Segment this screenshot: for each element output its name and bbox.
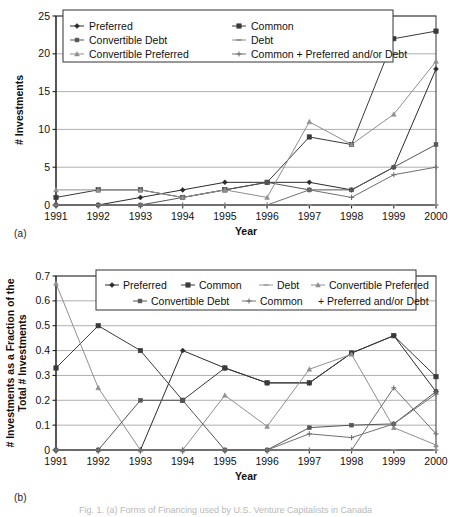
series-marker <box>307 119 312 124</box>
x-tick-label: 1999 <box>382 210 406 222</box>
two-panel-line-chart-figure: 0510152025199119921993199419951996199719… <box>0 0 451 517</box>
legend-item[interactable]: Common + Preferred and/or Debt <box>232 48 407 60</box>
series-marker <box>222 180 227 185</box>
x-tick-label: 1997 <box>298 210 322 222</box>
series-marker <box>96 385 101 390</box>
series-marker <box>307 426 311 430</box>
legend-label: Convertible Preferred <box>329 279 429 291</box>
x-tick-label: 2000 <box>424 210 448 222</box>
series-marker <box>434 66 439 71</box>
series-marker <box>392 333 396 337</box>
series-marker <box>434 29 438 33</box>
legend-label: Common <box>260 295 303 307</box>
series-marker <box>181 398 185 402</box>
series-common <box>54 324 438 403</box>
x-tick-label: 1992 <box>87 455 111 467</box>
series-marker <box>307 431 312 436</box>
series-marker <box>180 202 185 207</box>
y-tick-label: 0.2 <box>35 394 50 406</box>
y-tick-label: 0 <box>44 444 50 456</box>
series-marker <box>180 348 185 353</box>
series-marker <box>138 348 142 352</box>
legend-label: Common <box>199 279 242 291</box>
series-marker <box>392 165 396 169</box>
x-tick-label: 1992 <box>87 210 111 222</box>
y-tick-label: 20 <box>38 47 50 59</box>
series-marker <box>138 195 143 200</box>
legend-label: Common <box>251 20 294 32</box>
y-tick-label: 0.6 <box>35 294 50 306</box>
series-marker <box>350 423 354 427</box>
y-tick-label: 0.3 <box>35 369 50 381</box>
chart-panel-b: 00.10.20.30.40.50.60.7199119921993199419… <box>0 262 451 502</box>
series-marker <box>307 135 311 139</box>
series-marker <box>96 324 100 328</box>
chart-panel-a: 0510152025199119921993199419951996199719… <box>0 0 451 255</box>
series-marker <box>139 398 143 402</box>
series-marker <box>222 202 227 207</box>
x-tick-label: 1993 <box>129 455 153 467</box>
x-tick-label: 1998 <box>340 210 364 222</box>
y-tick-label: 0.1 <box>35 419 50 431</box>
series-line <box>56 69 436 205</box>
series-line <box>56 388 436 450</box>
x-tick-label: 1999 <box>382 455 406 467</box>
legend: PreferredCommonConvertible DebtDebtConve… <box>63 10 407 62</box>
series-marker <box>222 393 227 398</box>
x-tick-label: 1998 <box>340 455 364 467</box>
x-tick-label: 1994 <box>171 455 195 467</box>
x-tick-label: 1997 <box>298 455 322 467</box>
y-tick-label: 0.7 <box>35 270 50 282</box>
series-line <box>56 145 436 205</box>
legend-marker <box>75 38 79 42</box>
series-marker <box>350 188 354 192</box>
series-marker <box>349 435 354 440</box>
figure-caption-cutoff: Fig. 1. (a) Forms of Financing used by U… <box>0 506 451 517</box>
panel-a-label: (a) <box>14 228 27 239</box>
panel-b-label: (b) <box>14 492 27 503</box>
figure-caption-text: Fig. 1. (a) Forms of Financing used by U… <box>0 506 451 515</box>
y-axis-title-line-2: Total # Investments <box>16 314 28 411</box>
x-axis: 1991199219931994199519961997199819992000 <box>44 205 448 222</box>
y-axis-title: # Investments <box>13 75 25 145</box>
legend: PreferredCommonDebtConvertible Preferred… <box>96 270 429 310</box>
y-tick-label: 5 <box>44 161 50 173</box>
x-tick-label: 1995 <box>213 455 237 467</box>
series-marker <box>265 381 269 385</box>
series-marker <box>307 447 312 452</box>
y-axis: 0510152025 <box>38 10 56 211</box>
series-marker <box>265 202 270 207</box>
series-marker <box>54 281 59 286</box>
series-marker <box>434 374 438 378</box>
series-marker <box>307 381 311 385</box>
y-tick-label: 0 <box>44 199 50 211</box>
legend-item[interactable]: + Preferred and/or Debt <box>318 295 429 307</box>
y-axis: 00.10.20.30.40.50.60.7 <box>35 270 56 456</box>
y-tick-label: 10 <box>38 123 50 135</box>
legend-label: Convertible Debt <box>151 295 229 307</box>
legend-label: Convertible Preferred <box>89 48 189 60</box>
legend-label: Common + Preferred and/or Debt <box>251 48 407 60</box>
y-tick-label: 0.4 <box>35 344 50 356</box>
chart-b-canvas: 00.10.20.30.40.50.60.7199119921993199419… <box>0 262 451 502</box>
series-marker <box>391 172 396 177</box>
legend-marker <box>186 283 190 287</box>
series-convertible-debt <box>54 390 438 452</box>
legend-item[interactable]: Convertible Preferred <box>311 279 429 291</box>
legend-label: Debt <box>277 279 299 291</box>
y-tick-label: 25 <box>38 10 50 22</box>
x-tick-label: 1996 <box>255 455 279 467</box>
series-marker <box>265 180 269 184</box>
legend-label: Preferred <box>123 279 167 291</box>
legend-label: + Preferred and/or Debt <box>318 295 429 307</box>
x-axis-title: Year <box>235 225 257 237</box>
series-marker <box>54 366 58 370</box>
series-marker <box>223 366 227 370</box>
series-marker <box>54 195 58 199</box>
series-convertible-debt <box>54 143 438 207</box>
series-marker <box>349 195 354 200</box>
series-marker <box>307 180 312 185</box>
x-tick-label: 1995 <box>213 210 237 222</box>
x-tick-label: 2000 <box>424 455 448 467</box>
chart-a-canvas: 0510152025199119921993199419951996199719… <box>0 0 451 255</box>
